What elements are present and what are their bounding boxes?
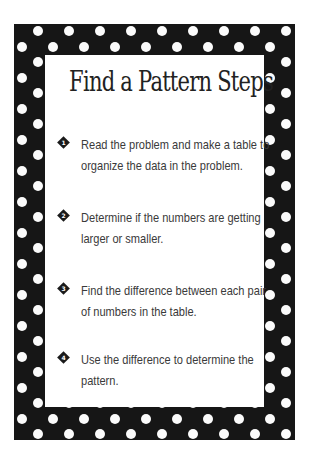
step-text: Determine if the numbers are getting lar… <box>81 207 270 249</box>
polka-dot <box>281 398 291 408</box>
polka-dot <box>33 26 43 36</box>
polka-dot <box>17 321 27 331</box>
polka-dot <box>172 414 182 424</box>
polka-dot <box>48 414 58 424</box>
polka-dot <box>281 181 291 191</box>
polka-dot <box>17 228 27 238</box>
polka-dot <box>33 305 43 315</box>
polka-dot <box>281 243 291 253</box>
polka-dot <box>17 135 27 145</box>
polka-dot <box>281 305 291 315</box>
polka-dot <box>265 259 275 269</box>
polka-dot <box>265 104 275 114</box>
polka-dot <box>17 166 27 176</box>
polka-dot <box>265 321 275 331</box>
polka-dot <box>188 26 198 36</box>
polka-dot <box>157 429 167 439</box>
polka-dot <box>17 197 27 207</box>
diamond-number-icon: 4 <box>58 352 69 363</box>
step-text: Read the problem and make a table to org… <box>81 134 270 176</box>
polka-dot <box>250 26 260 36</box>
polka-dot <box>281 150 291 160</box>
polka-dot <box>281 88 291 98</box>
polka-dot <box>48 42 58 52</box>
polka-dot <box>17 383 27 393</box>
polka-dot <box>219 429 229 439</box>
polka-dot <box>17 352 27 362</box>
polka-dot <box>17 73 27 83</box>
polka-dot <box>17 104 27 114</box>
step-text: Find the difference between each pair of… <box>81 280 270 322</box>
polka-dot <box>17 414 27 424</box>
polka-dot <box>281 26 291 36</box>
polka-dot <box>281 212 291 222</box>
polka-dot <box>141 42 151 52</box>
polka-dot <box>281 274 291 284</box>
polka-dot <box>33 398 43 408</box>
polka-dot <box>281 57 291 67</box>
polka-dot <box>281 336 291 346</box>
step-text: Use the difference to determine the patt… <box>81 349 270 391</box>
polka-dot <box>33 274 43 284</box>
polka-dot <box>64 26 74 36</box>
polka-dot <box>188 429 198 439</box>
polka-dot <box>33 88 43 98</box>
polka-dot <box>33 119 43 129</box>
polka-dot <box>203 42 213 52</box>
polka-dot <box>203 414 213 424</box>
polka-dot <box>265 197 275 207</box>
polka-dot <box>17 290 27 300</box>
polka-dot <box>265 414 275 424</box>
polka-dot <box>172 42 182 52</box>
polka-dot <box>281 367 291 377</box>
polka-dot <box>79 42 89 52</box>
page-title: Find a Pattern Steps <box>69 66 240 97</box>
polka-dot <box>219 26 229 36</box>
polka-dot <box>33 57 43 67</box>
polka-dot <box>234 414 244 424</box>
diamond-number-icon: 3 <box>58 283 69 294</box>
polka-dot <box>141 414 151 424</box>
polka-dot <box>250 429 260 439</box>
polka-dot <box>281 429 291 439</box>
diamond-number-icon: 1 <box>58 137 69 148</box>
polka-dot <box>33 150 43 160</box>
polka-dot <box>17 259 27 269</box>
polka-dot <box>33 367 43 377</box>
polka-dot <box>95 429 105 439</box>
polka-dot <box>265 42 275 52</box>
polka-dot <box>234 42 244 52</box>
polka-dot <box>110 42 120 52</box>
diamond-number-icon: 2 <box>58 210 69 221</box>
polka-dot <box>110 414 120 424</box>
polka-dot <box>95 26 105 36</box>
polka-dot <box>33 212 43 222</box>
polka-dot <box>157 26 167 36</box>
polka-dot <box>64 429 74 439</box>
polka-dot <box>79 414 89 424</box>
polka-dot <box>126 429 136 439</box>
polka-dot <box>33 336 43 346</box>
polka-dot <box>33 429 43 439</box>
polka-dot <box>33 181 43 191</box>
polka-dot <box>33 243 43 253</box>
polka-dot <box>126 26 136 36</box>
polka-dot <box>281 119 291 129</box>
polka-dot <box>17 42 27 52</box>
